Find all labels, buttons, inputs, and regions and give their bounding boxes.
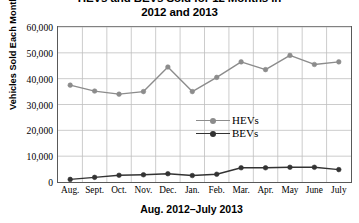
chart-svg <box>58 27 351 182</box>
x-tick-label: Feb. <box>209 185 225 195</box>
data-point-hevs <box>263 67 268 72</box>
x-tick-label: Aug. <box>61 185 79 195</box>
plot-area <box>57 26 352 183</box>
y-axis-tick-labels: 010,00020,00030,00040,00050,00060,000 <box>0 0 57 209</box>
legend-key-hevs-icon <box>196 115 230 126</box>
data-point-bevs <box>68 177 73 182</box>
data-point-hevs <box>166 65 171 70</box>
legend-key-bevs-icon <box>196 128 230 139</box>
x-tick-label: Mar. <box>232 185 249 195</box>
x-tick-label: May <box>281 185 298 195</box>
data-point-bevs <box>312 165 317 170</box>
data-point-hevs <box>68 83 73 88</box>
data-point-hevs <box>190 89 195 94</box>
data-point-hevs <box>288 53 293 58</box>
data-point-bevs <box>92 175 97 180</box>
data-point-hevs <box>312 62 317 67</box>
data-point-bevs <box>117 173 122 178</box>
y-tick-label: 50,000 <box>27 47 53 58</box>
data-point-bevs <box>239 165 244 170</box>
legend-label-hevs: HEVs <box>232 115 259 126</box>
data-point-bevs <box>141 172 146 177</box>
data-point-hevs <box>141 89 146 94</box>
data-point-bevs <box>288 165 293 170</box>
chart-legend: HEVs BEVs <box>196 114 259 140</box>
x-tick-label: Sept. <box>85 185 104 195</box>
x-tick-label: Oct. <box>111 185 127 195</box>
x-tick-label: July <box>331 185 347 195</box>
data-point-hevs <box>92 89 97 94</box>
data-point-hevs <box>239 60 244 65</box>
legend-item-bevs: BEVs <box>196 127 259 140</box>
x-tick-label: Nov. <box>135 185 153 195</box>
data-point-bevs <box>214 172 219 177</box>
x-axis-title: Aug. 2012–July 2013 <box>30 203 353 215</box>
data-point-bevs <box>263 165 268 170</box>
data-point-bevs <box>190 173 195 178</box>
y-tick-label: 60,000 <box>27 22 53 33</box>
x-tick-label: Dec. <box>159 185 176 195</box>
data-point-hevs <box>117 92 122 97</box>
x-tick-label: Apr. <box>257 185 273 195</box>
y-tick-label: 10,000 <box>27 151 53 162</box>
legend-item-hevs: HEVs <box>196 114 259 127</box>
data-point-hevs <box>214 75 219 80</box>
data-point-bevs <box>336 167 341 172</box>
y-tick-label: 20,000 <box>27 125 53 136</box>
data-point-bevs <box>166 171 171 176</box>
chart-container: HEVs and BEVs Sold for 12 Months in 2012… <box>0 0 359 223</box>
y-tick-label: 0 <box>48 177 53 188</box>
y-tick-label: 30,000 <box>27 99 53 110</box>
x-axis-tick-labels: Aug.Sept.Oct.Nov.Dec.Jan.Feb.Mar.Apr.May… <box>57 185 352 199</box>
data-point-hevs <box>336 60 341 65</box>
legend-label-bevs: BEVs <box>232 128 258 139</box>
chart-title-line-1: HEVs and BEVs Sold for 12 Months in <box>78 0 282 4</box>
x-tick-label: Jan. <box>185 185 200 195</box>
x-tick-label: June <box>306 185 323 195</box>
y-tick-label: 40,000 <box>27 73 53 84</box>
